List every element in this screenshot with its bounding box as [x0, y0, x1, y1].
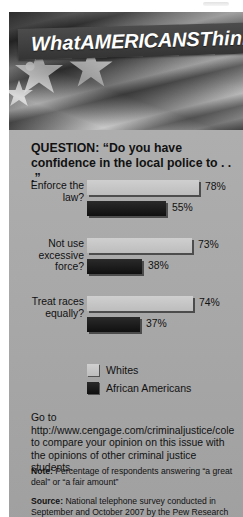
source-block: Source: National telephone survey conduc… [31, 496, 233, 517]
legend-swatch-whites [87, 364, 99, 376]
title-text-part1: What [31, 31, 81, 55]
source-label: Source: [31, 496, 63, 506]
bar-value-whites: 74% [199, 297, 220, 308]
legend-label-african-americans: African Americans [106, 382, 191, 394]
bar-value-african-americans: 55% [172, 202, 193, 213]
note-label: Note: [31, 466, 53, 476]
bar-value-whites: 73% [198, 239, 219, 250]
bar-row-african-americans: 38% [87, 259, 243, 275]
title-text-part2: Think [199, 26, 243, 50]
chart-group: Treat races equally? 74% 37% [9, 296, 243, 343]
legend-item-african-americans: African Americans [87, 380, 191, 395]
bar-value-whites: 78% [205, 181, 226, 192]
bar-chart: Enforce the law? 78% 55% Not use excessi… [9, 180, 243, 354]
chart-group: Not use excessive force? 73% 38% [9, 238, 243, 285]
group-bars: 73% 38% [87, 238, 243, 280]
bar-african-americans [87, 259, 142, 274]
american-flag-photo: What AMERICANS Think [9, 12, 243, 130]
category-label: Enforce the law? [9, 180, 84, 203]
content-panel: QUESTION: “Do you have confidence in the… [9, 130, 243, 517]
note-text: Percentage of respondents answering “a g… [31, 466, 232, 487]
note-block: Note: Percentage of respondents answerin… [31, 466, 233, 487]
bar-african-americans [87, 201, 166, 216]
legend-swatch-african-americans [87, 382, 99, 394]
group-bars: 74% 37% [87, 296, 243, 338]
bar-whites [87, 296, 193, 311]
chart-legend: Whites African Americans [87, 362, 191, 398]
page-top-mark [203, 2, 229, 6]
bar-row-whites: 78% [87, 180, 243, 196]
category-label: Not use excessive force? [9, 238, 84, 273]
infographic-page: What AMERICANS Think QUESTION: “Do you h… [0, 0, 243, 517]
chart-group: Enforce the law? 78% 55% [9, 180, 243, 227]
bar-whites [87, 180, 199, 195]
bar-row-whites: 73% [87, 238, 243, 254]
group-bars: 78% 55% [87, 180, 243, 222]
bar-row-whites: 74% [87, 296, 243, 312]
bar-whites [87, 238, 192, 253]
page-title: What AMERICANS Think [18, 23, 243, 59]
bar-value-african-americans: 38% [148, 260, 169, 271]
bar-value-african-americans: 37% [146, 318, 167, 329]
title-text-caps: AMERICANS [80, 28, 200, 54]
bar-row-african-americans: 37% [87, 317, 243, 333]
legend-item-whites: Whites [87, 362, 191, 377]
legend-label-whites: Whites [106, 364, 138, 376]
category-label: Treat races equally? [9, 296, 84, 319]
bar-row-african-americans: 55% [87, 201, 243, 217]
bar-african-americans [87, 317, 140, 332]
